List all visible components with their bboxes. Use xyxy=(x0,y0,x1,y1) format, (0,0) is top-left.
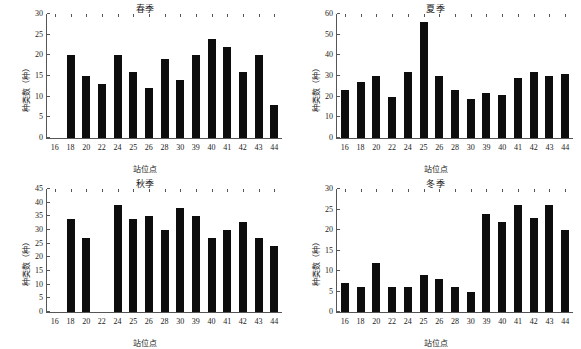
x-tick-label-winter-22: 22 xyxy=(388,312,396,326)
x-tick-label-summer-42: 42 xyxy=(530,138,538,152)
y-axis-label-summer: 种类数（种） xyxy=(310,64,321,112)
bar-slot xyxy=(94,189,110,312)
bar-autumn-41 xyxy=(223,230,231,312)
y-tick-label-autumn-15: 15 xyxy=(35,267,47,275)
bar-slot xyxy=(172,14,188,138)
bar-spring-22 xyxy=(98,84,106,138)
bar-spring-40 xyxy=(208,39,216,138)
bar-autumn-42 xyxy=(239,222,247,312)
bar-slot xyxy=(251,14,267,138)
bar-slot xyxy=(479,189,495,312)
bar-summer-43 xyxy=(545,76,553,138)
bar-slot xyxy=(204,14,220,138)
y-tick-label-winter-15: 15 xyxy=(325,247,337,255)
bar-slot xyxy=(557,189,573,312)
bar-summer-22 xyxy=(388,97,396,138)
bar-slot xyxy=(266,14,282,138)
bar-spring-28 xyxy=(161,59,169,138)
x-tick-label-winter-18: 18 xyxy=(357,312,365,326)
x-tick-label-winter-43: 43 xyxy=(545,312,553,326)
x-tick-label-spring-28: 28 xyxy=(161,138,169,152)
bar-slot xyxy=(400,14,416,138)
bar-summer-25 xyxy=(420,22,428,138)
bar-summer-41 xyxy=(514,78,522,138)
y-tick-label-spring-15: 15 xyxy=(35,72,47,80)
x-tick-label-winter-24: 24 xyxy=(404,312,412,326)
bar-series-summer xyxy=(337,14,573,138)
bar-slot xyxy=(368,189,384,312)
bar-winter-39 xyxy=(482,214,490,312)
x-tick-label-autumn-41: 41 xyxy=(223,312,231,326)
bar-slot xyxy=(416,189,432,312)
y-tick-label-spring-0: 0 xyxy=(39,134,47,142)
x-tick-label-spring-26: 26 xyxy=(145,138,153,152)
x-tick-label-autumn-24: 24 xyxy=(114,312,122,326)
y-tick-label-spring-25: 25 xyxy=(35,31,47,39)
bar-spring-30 xyxy=(176,80,184,138)
bar-slot xyxy=(526,14,542,138)
bar-slot xyxy=(447,14,463,138)
x-axis-label-autumn: 站位点 xyxy=(0,337,290,348)
x-tick-label-spring-39: 39 xyxy=(192,138,200,152)
bar-spring-20 xyxy=(82,76,90,138)
x-tick-label-summer-43: 43 xyxy=(545,138,553,152)
x-tick-label-winter-30: 30 xyxy=(467,312,475,326)
bar-spring-26 xyxy=(145,88,153,138)
bar-slot xyxy=(542,14,558,138)
x-tick-label-spring-18: 18 xyxy=(67,138,75,152)
x-tick-label-summer-39: 39 xyxy=(482,138,490,152)
y-tick-label-spring-5: 5 xyxy=(39,113,47,121)
bar-slot xyxy=(141,189,157,312)
x-tick-label-winter-40: 40 xyxy=(498,312,506,326)
bar-summer-40 xyxy=(498,95,506,138)
bar-slot xyxy=(94,14,110,138)
bar-slot xyxy=(510,14,526,138)
bar-slot xyxy=(188,14,204,138)
bar-series-spring xyxy=(47,14,282,138)
y-tick-label-spring-20: 20 xyxy=(35,51,47,59)
x-tick-label-spring-44: 44 xyxy=(270,138,278,152)
y-tick-label-autumn-25: 25 xyxy=(35,240,47,248)
y-tick-label-summer-20: 20 xyxy=(325,93,337,101)
bar-slot xyxy=(353,189,369,312)
bar-winter-42 xyxy=(530,218,538,312)
bar-winter-41 xyxy=(514,205,522,312)
y-tick-label-summer-50: 50 xyxy=(325,31,337,39)
x-tick-label-autumn-44: 44 xyxy=(270,312,278,326)
x-tick-label-summer-41: 41 xyxy=(514,138,522,152)
bar-autumn-40 xyxy=(208,238,216,312)
x-tick-label-winter-20: 20 xyxy=(372,312,380,326)
bar-winter-44 xyxy=(561,230,569,312)
x-tick-label-winter-42: 42 xyxy=(530,312,538,326)
x-tick-label-autumn-39: 39 xyxy=(192,312,200,326)
x-tick-label-winter-28: 28 xyxy=(451,312,459,326)
bar-summer-24 xyxy=(404,72,412,138)
bar-summer-20 xyxy=(372,76,380,138)
bar-slot xyxy=(510,189,526,312)
x-tick-label-summer-22: 22 xyxy=(388,138,396,152)
y-tick-label-autumn-10: 10 xyxy=(35,281,47,289)
bar-slot xyxy=(494,14,510,138)
bar-autumn-30 xyxy=(176,208,184,312)
bar-summer-44 xyxy=(561,74,569,138)
bar-series-winter xyxy=(337,189,573,312)
bar-slot xyxy=(157,14,173,138)
bar-slot xyxy=(368,14,384,138)
bar-autumn-25 xyxy=(129,219,137,312)
x-tick-label-summer-24: 24 xyxy=(404,138,412,152)
y-tick-label-summer-40: 40 xyxy=(325,51,337,59)
x-tick-label-autumn-28: 28 xyxy=(161,312,169,326)
chart-title-autumn: 秋季 xyxy=(0,177,290,190)
bar-winter-30 xyxy=(467,292,475,313)
bar-slot xyxy=(110,14,126,138)
bar-winter-18 xyxy=(357,287,365,312)
y-tick-label-autumn-40: 40 xyxy=(35,199,47,207)
x-tick-label-spring-22: 22 xyxy=(98,138,106,152)
x-tick-label-summer-25: 25 xyxy=(420,138,428,152)
bar-slot xyxy=(251,189,267,312)
x-tick-label-autumn-26: 26 xyxy=(145,312,153,326)
x-tick-label-winter-41: 41 xyxy=(514,312,522,326)
bar-spring-44 xyxy=(270,105,278,138)
x-tick-label-winter-44: 44 xyxy=(561,312,569,326)
x-tick-label-summer-20: 20 xyxy=(372,138,380,152)
